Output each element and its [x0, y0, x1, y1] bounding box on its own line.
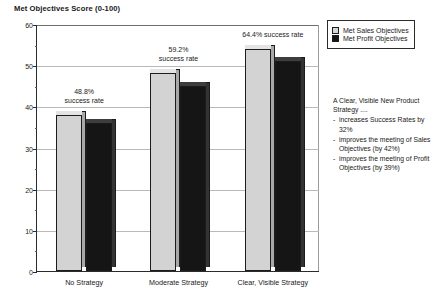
- legend-label: Met Profit Objectives: [343, 35, 408, 42]
- bar-group: 59.2% success rateModerate Strategy: [131, 25, 225, 271]
- bar-front-face: [275, 61, 301, 271]
- bar-front-face: [245, 49, 271, 271]
- side-annotation: A Clear, Visible New Product Strategy ..…: [333, 96, 439, 174]
- chart-title: Met Objectives Score (0-100): [14, 4, 120, 13]
- group-annotation: 64.4% success rate: [218, 30, 328, 39]
- x-axis-label: Moderate Strategy: [149, 278, 208, 287]
- bar-chart: Met Objectives Score (0-100) 01020304050…: [0, 0, 443, 299]
- y-axis-tick-label: 40: [25, 104, 33, 111]
- legend-swatch-dark: [332, 35, 339, 42]
- legend-label: Met Sales Objectives: [343, 27, 409, 34]
- y-axis-tick-label: 60: [25, 22, 33, 29]
- y-axis-tick-label: 10: [25, 227, 33, 234]
- side-annotation-bullet: increases Success Rates by 32%: [333, 115, 439, 133]
- y-axis-tick-label: 50: [25, 63, 33, 70]
- bar: [245, 49, 271, 271]
- side-annotation-headline: A Clear, Visible New Product Strategy ..…: [333, 96, 439, 114]
- bar-side-face: [301, 57, 305, 267]
- bar: [56, 115, 82, 271]
- bar: [180, 86, 206, 271]
- bar-front-face: [86, 123, 112, 271]
- side-annotation-bullet: improves the meeting of Sales Objectives…: [333, 135, 439, 153]
- bar-side-face: [112, 119, 116, 267]
- bar: [150, 73, 176, 271]
- y-axis-tick-label: 0: [29, 269, 33, 276]
- bar-group: 48.8% success rateNo Strategy: [37, 25, 131, 271]
- bar: [275, 61, 301, 271]
- side-annotation-bullet: improves the meeting of Profit Objective…: [333, 154, 439, 172]
- x-axis-label: No Strategy: [65, 278, 103, 287]
- y-axis-tick-label: 20: [25, 186, 33, 193]
- bar: [86, 123, 112, 271]
- legend-item[interactable]: Met Profit Objectives: [332, 35, 409, 42]
- group-annotation: 59.2% success rate: [133, 45, 223, 63]
- y-axis-tick-label: 30: [25, 145, 33, 152]
- side-annotation-bullets: increases Success Rates by 32%improves t…: [333, 115, 439, 172]
- bar-front-face: [150, 73, 176, 271]
- legend-swatch-light: [332, 27, 339, 34]
- legend: Met Sales ObjectivesMet Profit Objective…: [327, 20, 415, 49]
- bar-front-face: [180, 86, 206, 271]
- x-axis-label: Clear, Visible Strategy: [238, 278, 309, 287]
- bar-side-face: [206, 82, 210, 267]
- plot-area: 010203040506048.8% success rateNo Strate…: [36, 25, 319, 272]
- group-annotation: 48.8% success rate: [39, 87, 129, 105]
- y-axis-tick: [33, 272, 37, 273]
- legend-item[interactable]: Met Sales Objectives: [332, 27, 409, 34]
- bar-front-face: [56, 115, 82, 271]
- bar-group: 64.4% success rateClear, Visible Strateg…: [226, 25, 320, 271]
